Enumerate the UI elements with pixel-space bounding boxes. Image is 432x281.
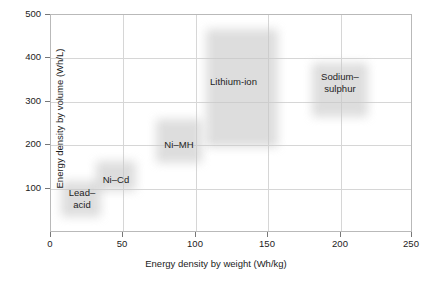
gridline-x-200 <box>341 15 342 231</box>
ytick-label-200: 200 <box>11 139 41 149</box>
series-label-lithium-ion: Lithium-ion <box>210 76 257 88</box>
xtick-label-50: 50 <box>105 239 139 249</box>
plot-area: Lithium-ion Sodium– sulphur Ni–MH Ni–Cd … <box>50 14 412 232</box>
ytick-label-400: 400 <box>11 52 41 62</box>
xtick-label-150: 150 <box>250 239 284 249</box>
y-axis-title: Energy density by volume (Wh/L) <box>54 9 65 229</box>
ytick-label-300: 300 <box>11 96 41 106</box>
ytick-label-500: 500 <box>11 9 41 19</box>
series-label-ni-cd: Ni–Cd <box>95 174 137 186</box>
chart-container: Lithium-ion Sodium– sulphur Ni–MH Ni–Cd … <box>0 0 432 281</box>
x-axis-title: Energy density by weight (Wh/kg) <box>0 258 432 269</box>
xtick-label-0: 0 <box>33 239 67 249</box>
xtick-label-200: 200 <box>323 239 357 249</box>
ytick-label-100: 100 <box>11 183 41 193</box>
xtick-label-250: 250 <box>394 239 428 249</box>
gridline-x-50 <box>123 15 124 231</box>
region-lithium-ion <box>206 29 278 147</box>
xtick-label-100: 100 <box>178 239 212 249</box>
series-label-lead-acid: Lead– acid <box>61 187 103 210</box>
series-label-ni-mh: Ni–MH <box>155 139 203 151</box>
series-label-sodium-sulphur: Sodium– sulphur <box>309 71 371 94</box>
